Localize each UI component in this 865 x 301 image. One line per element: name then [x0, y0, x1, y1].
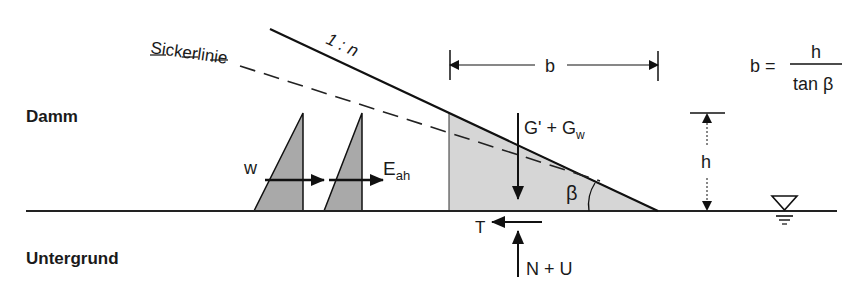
dimension-b-label: b — [545, 56, 555, 76]
seepage-line-label: Sickerlinie — [149, 38, 228, 68]
dimension-h-label: h — [701, 152, 711, 172]
formula-denominator: tan β — [793, 74, 833, 94]
water-pressure-triangle — [254, 113, 303, 211]
embankment-label: Damm — [26, 107, 78, 126]
weight-label: G' + Gw — [524, 118, 585, 142]
earth-pressure-label: Eah — [383, 158, 410, 183]
embankment-stability-diagram: Sickerlinie 1 : n b b = h tan β h G' + G… — [0, 0, 865, 301]
formula-lhs: b = — [750, 56, 776, 76]
normal-uplift-label: N + U — [526, 259, 573, 279]
subsoil-label: Untergrund — [26, 249, 119, 268]
friction-label: T — [475, 218, 485, 237]
angle-beta-label: β — [566, 182, 578, 204]
formula-numerator: h — [811, 42, 821, 62]
water-pressure-label: w — [243, 158, 258, 178]
earth-pressure-triangle — [324, 113, 362, 211]
